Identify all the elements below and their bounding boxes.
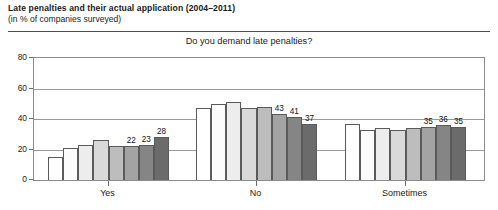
bar (109, 146, 124, 180)
x-axis-label-yes: Yes (100, 188, 115, 198)
bar: 36 (436, 125, 451, 180)
bar-value-label: 23 (142, 135, 151, 144)
bar-group-yes: 222328 (48, 58, 169, 180)
figure-subtitle: (in % of companies surveyed) (8, 14, 490, 25)
bar: 23 (139, 145, 154, 180)
bar-value-label: 35 (454, 117, 463, 126)
bar (406, 128, 421, 180)
x-axis-tick-mark (256, 181, 257, 186)
bar-group-no: 434137 (196, 58, 317, 180)
bar-value-label: 35 (424, 117, 433, 126)
bar-series-container: 222328434137353635 (34, 58, 484, 180)
bar-value-label: 37 (305, 114, 314, 123)
y-axis-tick-label: 40 (5, 113, 27, 123)
bar (360, 130, 375, 180)
bar-value-label: 43 (275, 104, 284, 113)
bar (226, 102, 241, 180)
bar (241, 108, 256, 180)
bar-value-label: 36 (439, 115, 448, 124)
bar-value-label: 28 (157, 127, 166, 136)
bar-group-sometimes: 353635 (345, 58, 466, 180)
x-axis-label-sometimes: Sometimes (382, 188, 427, 198)
bar (63, 148, 78, 180)
x-axis-label-no: No (250, 188, 262, 198)
bar (48, 157, 63, 180)
bar (211, 104, 226, 180)
bar: 22 (124, 146, 139, 180)
plot-area: 222328434137353635 (33, 57, 485, 181)
x-axis-tick-mark (405, 181, 406, 186)
bar-value-label: 41 (290, 107, 299, 116)
bar: 35 (421, 127, 436, 180)
chart-figure: Late penalties and their actual applicat… (0, 0, 498, 210)
bar (375, 128, 390, 180)
bar: 41 (287, 117, 302, 180)
y-axis-tick-label: 20 (5, 144, 27, 154)
bar: 43 (272, 114, 287, 180)
y-axis-tick-label: 80 (5, 52, 27, 62)
figure-title: Late penalties and their actual applicat… (8, 3, 490, 14)
x-axis-tick-mark (108, 181, 109, 186)
bar: 35 (451, 127, 466, 180)
y-axis-tick-label: 0 (5, 174, 27, 184)
bar (345, 124, 360, 180)
header-divider (8, 31, 490, 32)
chart-question-title: Do you demand late penalties? (0, 36, 498, 46)
bar (93, 140, 108, 180)
bar-value-label: 22 (127, 136, 136, 145)
bar (196, 108, 211, 180)
bar (257, 107, 272, 180)
bar: 28 (154, 137, 169, 180)
bar (78, 145, 93, 180)
bar (390, 130, 405, 180)
bar: 37 (302, 124, 317, 180)
y-axis-tick-label: 60 (5, 83, 27, 93)
figure-header: Late penalties and their actual applicat… (8, 3, 490, 25)
